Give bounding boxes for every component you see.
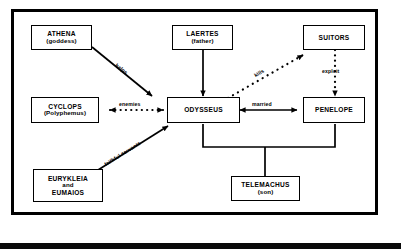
node-athena-line2: (goddess)	[46, 38, 76, 45]
node-laertes[interactable]: LAERTES (father)	[172, 25, 233, 50]
node-odysseus-line1: ODYSSEUS	[184, 106, 223, 113]
node-laertes-line2: (father)	[191, 38, 213, 45]
node-telemachus-line2: (son)	[258, 189, 274, 196]
node-penelope-line1: PENELOPE	[315, 106, 353, 113]
page-bottom-bar	[0, 243, 401, 249]
node-cyclops[interactable]: CYCLOPS (Polyphemus)	[31, 97, 99, 123]
node-eurykleia-line3: EUMAIOS	[52, 189, 85, 196]
node-suitors[interactable]: SUITORS	[303, 25, 365, 50]
node-penelope[interactable]: PENELOPE	[303, 97, 365, 123]
node-eurykleia-line2: and	[62, 182, 73, 189]
node-cyclops-line2: (Polyphemus)	[44, 110, 86, 117]
edge-label-married: married	[252, 101, 272, 107]
node-suitors-line1: SUITORS	[319, 34, 350, 41]
node-telemachus[interactable]: TELEMACHUS (son)	[231, 176, 300, 201]
node-athena[interactable]: ATHENA (goddess)	[31, 25, 92, 50]
edge-label-exploit: exploit	[322, 68, 339, 74]
node-eurykleia-eumaios[interactable]: EURYKLEIA and EUMAIOS	[33, 169, 103, 202]
edge-label-enemies: enemies	[119, 101, 140, 107]
edge-child-bracket	[203, 124, 335, 147]
edge-kills	[228, 55, 303, 98]
node-odysseus[interactable]: ODYSSEUS	[167, 97, 240, 123]
diagram-canvas: ATHENA (goddess) LAERTES (father) SUITOR…	[0, 0, 401, 249]
